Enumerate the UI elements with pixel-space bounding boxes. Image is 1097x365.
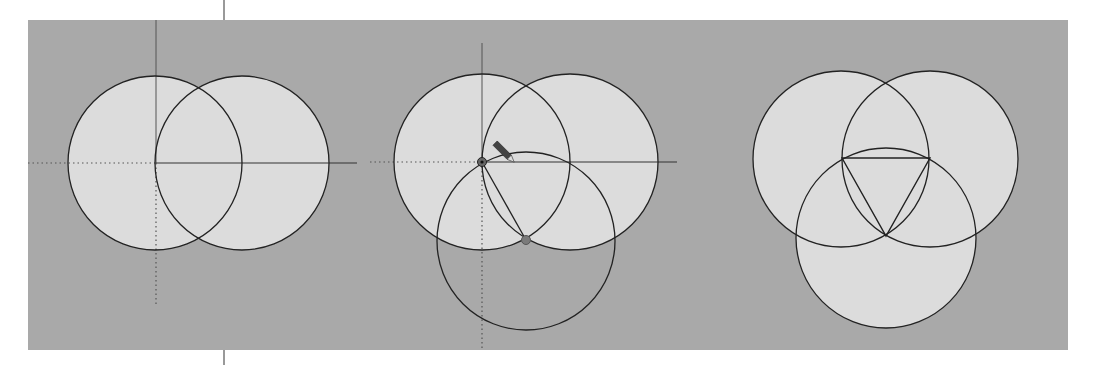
- construction-diagram: [0, 0, 1097, 365]
- circle-fill-3: [796, 148, 976, 328]
- origin-snap-point-center: [480, 160, 483, 163]
- intersection-snap-point-icon: [522, 236, 531, 245]
